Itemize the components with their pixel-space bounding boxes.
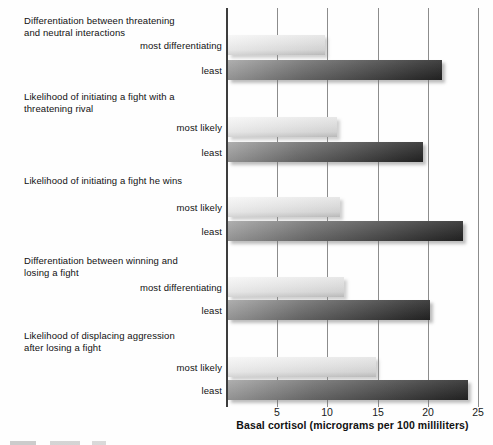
bar-qualifier-label: least (0, 380, 222, 400)
bar-qualifier-label: most differentiating (0, 277, 222, 297)
x-axis-title: Basal cortisol (micrograms per 100 milli… (212, 419, 493, 431)
dark-bar-b (228, 142, 423, 162)
group-label-text: Likelihood of displacing aggressionafter… (24, 330, 222, 353)
light-bar-a (228, 35, 325, 55)
cropped-caption-fragment (10, 441, 130, 445)
group-label-b: Likelihood of initiating a fight with at… (10, 91, 222, 114)
group-label-text: Likelihood of initiating a fight he wins (24, 175, 222, 187)
group-marker (10, 175, 24, 187)
group-label-line: Likelihood of initiating a fight with a (24, 91, 222, 103)
gridline-25 (478, 8, 479, 407)
group-label-e: Likelihood of displacing aggressionafter… (10, 330, 222, 353)
group-label-line: Likelihood of displacing aggression (24, 330, 222, 342)
light-bar-c (228, 197, 340, 217)
dark-bar-d (228, 300, 430, 320)
x-tick-label: 25 (472, 406, 484, 418)
bar-qualifier-label: least (0, 300, 222, 320)
bar-qualifier-label: most likely (0, 197, 222, 217)
bar-qualifier-label: most likely (0, 117, 222, 137)
group-marker (10, 255, 24, 278)
group-label-line: after losing a fight (24, 342, 222, 354)
group-label-line: threatening rival (24, 103, 222, 115)
dark-bar-a (228, 60, 442, 80)
group-label-d: Differentiation between winning andlosin… (10, 255, 222, 278)
group-label-line: Differentiation between threatening (24, 15, 222, 27)
bar-qualifier-label: least (0, 142, 222, 162)
x-tick-label: 15 (372, 406, 384, 418)
dark-bar-e (228, 380, 468, 400)
group-label-c: Likelihood of initiating a fight he wins (10, 175, 222, 187)
bar-qualifier-label: least (0, 221, 222, 241)
group-label-line: Differentiation between winning and (24, 255, 222, 267)
x-tick-label: 10 (321, 406, 333, 418)
light-bar-e (228, 357, 376, 377)
group-label-line: Likelihood of initiating a fight he wins (24, 175, 222, 187)
x-tick-label: 20 (422, 406, 434, 418)
group-marker (10, 330, 24, 353)
bar-qualifier-label: least (0, 60, 222, 80)
light-bar-b (228, 117, 337, 137)
cortisol-bar-chart: 510152025Differentiation between threate… (0, 0, 493, 445)
dark-bar-c (228, 221, 463, 241)
group-marker (10, 91, 24, 114)
group-label-text: Likelihood of initiating a fight with at… (24, 91, 222, 114)
bar-qualifier-label: most likely (0, 357, 222, 377)
x-tick-label: 5 (274, 406, 280, 418)
bar-qualifier-label: most differentiating (0, 35, 222, 55)
group-label-text: Differentiation between winning andlosin… (24, 255, 222, 278)
light-bar-d (228, 277, 344, 297)
